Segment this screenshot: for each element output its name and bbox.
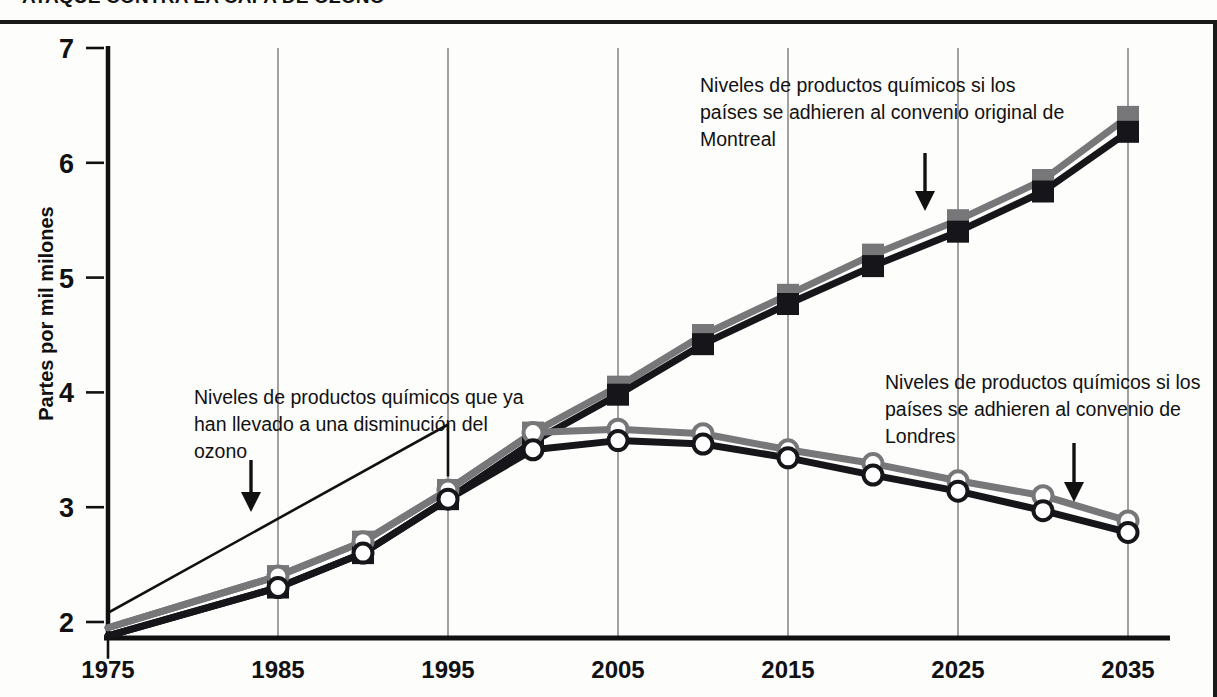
annotation-londres: Niveles de productos químicos si los paí… — [885, 369, 1205, 450]
x-tick-label-2025: 2025 — [931, 656, 984, 683]
x-tick-label-2005: 2005 — [591, 656, 644, 683]
y-tick-label-2: 2 — [59, 608, 74, 638]
data-point-1-2030 — [1033, 182, 1053, 202]
data-point-3-2010 — [694, 435, 713, 454]
arrow-montreal-head — [915, 191, 935, 211]
annotation-ozone: Niveles de productos químicos que ya han… — [194, 384, 524, 465]
data-point-1-2005 — [608, 385, 628, 405]
x-tick-label-1975: 1975 — [81, 656, 134, 683]
data-point-1-2015 — [778, 294, 798, 314]
x-tick-label-1985: 1985 — [251, 656, 304, 683]
data-point-1-2035 — [1118, 122, 1138, 142]
data-point-3-2035 — [1119, 523, 1138, 542]
y-tick-label-6: 6 — [59, 149, 74, 179]
data-point-3-2030 — [1034, 501, 1053, 520]
data-point-1-2020 — [863, 256, 883, 276]
x-tick-label-2035: 2035 — [1101, 656, 1154, 683]
y-axis-title: Partes por mil milones — [35, 184, 58, 444]
data-point-3-1990 — [354, 544, 373, 563]
data-point-3-2000 — [524, 440, 543, 459]
page-title: ATAQUE CONTRA LA CAPA DE OZONO — [22, 0, 385, 8]
data-point-3-2005 — [609, 431, 628, 450]
data-point-3-2025 — [949, 482, 968, 501]
x-tick-label-2015: 2015 — [761, 656, 814, 683]
data-point-3-2020 — [864, 466, 883, 485]
data-point-1-2010 — [693, 334, 713, 354]
annotation-montreal: Niveles de productos químicos si los paí… — [700, 72, 1070, 153]
y-tick-label-3: 3 — [59, 493, 74, 523]
arrow-ozone-head — [241, 492, 261, 512]
data-point-3-2015 — [779, 448, 798, 467]
y-tick-label-5: 5 — [59, 264, 74, 294]
chart-page: ATAQUE CONTRA LA CAPA DE OZONO Partes po… — [0, 0, 1217, 697]
y-tick-label-7: 7 — [59, 34, 74, 64]
x-tick-label-1995: 1995 — [421, 656, 474, 683]
plot-area: Partes por mil milones 23456719751985199… — [0, 24, 1217, 697]
title-bar: ATAQUE CONTRA LA CAPA DE OZONO — [0, 0, 1217, 18]
arrow-londres-head — [1064, 482, 1084, 502]
data-point-3-1985 — [269, 578, 288, 597]
y-tick-label-4: 4 — [59, 378, 74, 408]
data-point-3-1995 — [439, 490, 458, 509]
data-point-1-2025 — [948, 222, 968, 242]
